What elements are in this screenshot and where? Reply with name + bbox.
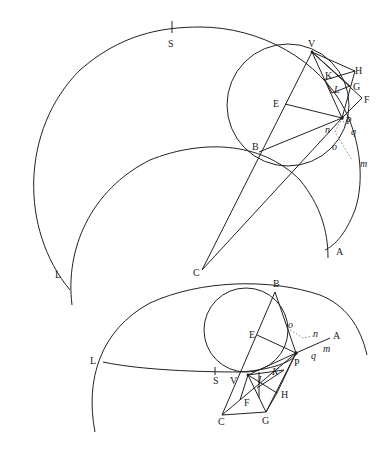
label-E: E <box>273 98 279 109</box>
label-A-lower: A <box>333 330 341 341</box>
line-K-L <box>325 80 332 93</box>
label-G-lower: G <box>262 415 269 426</box>
label-H-lower: H <box>281 389 288 400</box>
line-P-G <box>266 353 296 412</box>
label-I-lower: I <box>257 374 262 385</box>
label-L-lower: L <box>90 355 96 366</box>
label-P-lower: P <box>294 357 300 368</box>
label-o: o <box>332 141 337 152</box>
line-C-F-G <box>222 412 266 415</box>
label-B: B <box>252 141 259 152</box>
label-V: V <box>308 38 316 49</box>
orbit-curve-lower <box>103 352 297 372</box>
point-P-lower <box>294 351 298 355</box>
geometry-diagram: S V H K G L F E P n q o B m L C A <box>0 0 391 453</box>
label-S: S <box>168 38 174 49</box>
label-q: q <box>351 126 356 137</box>
line-G-H <box>266 393 277 412</box>
label-F: F <box>364 94 370 105</box>
line-P-C <box>202 118 342 270</box>
line-V-H <box>312 52 355 71</box>
label-L: L <box>55 269 61 280</box>
label-S-lower: S <box>213 375 219 386</box>
point-V <box>311 51 314 54</box>
label-A: A <box>336 246 344 257</box>
line-E-P <box>257 335 296 353</box>
label-K-lower: K <box>271 366 280 377</box>
label-B-lower: B <box>273 278 280 289</box>
inner-arc <box>71 147 328 305</box>
label-m-lower: m <box>323 343 330 354</box>
upper-figure: S V H K G L F E P n q o B m L C A <box>34 21 370 305</box>
label-L-small: L <box>333 84 340 95</box>
label-K: K <box>325 70 333 81</box>
label-E-lower: E <box>249 329 255 340</box>
line-V-C <box>202 52 312 270</box>
label-G: G <box>353 81 360 92</box>
label-H: H <box>355 65 362 76</box>
label-n-lower: n <box>313 328 318 339</box>
lower-figure: B E o n A L P m q S V I K F H C G <box>90 278 367 432</box>
point-V-lower <box>247 374 250 377</box>
label-n: n <box>325 124 330 135</box>
label-C: C <box>193 267 200 278</box>
label-C-lower: C <box>218 416 225 427</box>
outer-arc-lower <box>92 284 367 432</box>
label-V-lower: V <box>230 375 238 386</box>
label-o-lower: o <box>288 319 293 330</box>
point-P <box>340 116 344 120</box>
outer-orbit-curve <box>34 27 345 290</box>
dotted-o-n <box>290 330 313 338</box>
label-q-lower: q <box>311 350 316 361</box>
label-m: m <box>360 158 367 169</box>
label-F-lower: F <box>244 397 250 408</box>
line-E-P <box>285 104 342 118</box>
label-P: P <box>346 115 352 126</box>
